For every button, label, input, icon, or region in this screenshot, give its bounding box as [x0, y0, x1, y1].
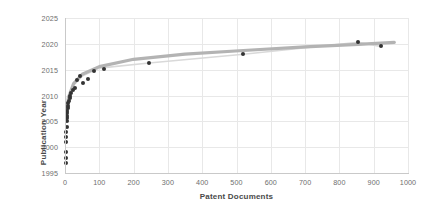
x-axis-title: Patent Documents [65, 192, 408, 201]
x-tick-label: 200 [117, 178, 151, 187]
x-tick-label: 1000 [391, 178, 425, 187]
data-point [73, 86, 77, 90]
x-axis-line [65, 173, 409, 174]
data-point [75, 78, 79, 82]
data-point [78, 74, 82, 78]
x-axis-tick-labels: 01002003004005006007008009001000 [0, 178, 435, 190]
data-point [147, 61, 151, 65]
data-point [81, 81, 85, 85]
x-tick-label: 500 [220, 178, 254, 187]
data-point [379, 44, 383, 48]
x-tick-label: 400 [185, 178, 219, 187]
x-tick-label: 0 [48, 178, 82, 187]
data-point [241, 52, 245, 56]
x-tick-label: 700 [288, 178, 322, 187]
y-tick-label: 2025 [24, 14, 58, 23]
x-tick-label: 800 [322, 178, 356, 187]
x-tick-label: 900 [357, 178, 391, 187]
y-axis-title: Publication Year [39, 78, 48, 188]
x-tick-label: 100 [82, 178, 116, 187]
data-point [86, 77, 90, 81]
y-axis-title-wrap: Publication Year [22, 40, 36, 150]
x-tick-label: 600 [254, 178, 288, 187]
data-point [356, 40, 360, 44]
data-point [102, 67, 106, 71]
scatter-chart: 1995200020052010201520202025 01002003004… [0, 0, 435, 214]
data-point [92, 69, 96, 73]
x-tick-label: 300 [151, 178, 185, 187]
gridline-vertical [408, 18, 409, 173]
plot-area [65, 18, 408, 173]
y-axis-line [65, 18, 66, 174]
data-points-layer [65, 18, 408, 173]
